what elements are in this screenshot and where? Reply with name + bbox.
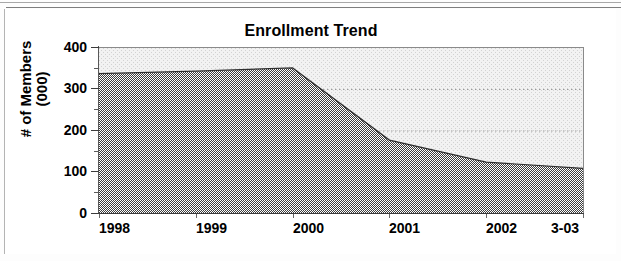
y-axis-title-line-1: # of Members: [18, 41, 34, 138]
x-axis-label-1999: 1999: [196, 221, 227, 235]
y-tick-0: [91, 213, 99, 214]
x-axis-label-2001: 2001: [389, 221, 420, 235]
x-axis-label-1998: 1998: [99, 221, 130, 235]
x-axis-label-2002: 2002: [486, 221, 517, 235]
x-axis-tick-labels: 1998 1999 2000 2001 2002 3-03: [99, 221, 585, 245]
x-tick-1999: [196, 214, 197, 218]
y-axis-label-300: 300: [39, 81, 87, 95]
x-tick-2002: [486, 214, 487, 218]
scanned-page: Enrollment Trend # of Members (000): [0, 0, 621, 261]
y-axis-label-200: 200: [39, 123, 87, 137]
y-axis-label-400: 400: [39, 40, 87, 54]
y-tick-50: [94, 192, 99, 193]
y-tick-300: [91, 88, 99, 89]
y-axis-label-100: 100: [39, 164, 87, 178]
y-tick-350: [94, 68, 99, 69]
x-axis-label-2000: 2000: [293, 221, 324, 235]
x-tick-3-03: [583, 214, 584, 218]
y-tick-100: [91, 171, 99, 172]
area-chart-svg: [99, 48, 583, 214]
y-tick-400: [91, 47, 99, 48]
y-axis-label-0: 0: [39, 206, 87, 220]
x-axis-line: [98, 213, 584, 214]
y-tick-250: [94, 109, 99, 110]
page-rule-top: [0, 2, 621, 3]
x-axis-label-3-03: 3-03: [551, 221, 579, 235]
chart-figure: Enrollment Trend # of Members (000): [4, 9, 616, 254]
y-tick-150: [94, 151, 99, 152]
page-rule-secondary: [6, 7, 621, 8]
x-tick-2001: [389, 214, 390, 218]
x-tick-1998: [99, 214, 100, 218]
y-tick-200: [91, 130, 99, 131]
chart-title: Enrollment Trend: [5, 22, 617, 40]
x-tick-2000: [293, 214, 294, 218]
plot-area: [99, 47, 584, 214]
y-axis-tick-labels: 400 300 200 100 0: [35, 9, 87, 254]
